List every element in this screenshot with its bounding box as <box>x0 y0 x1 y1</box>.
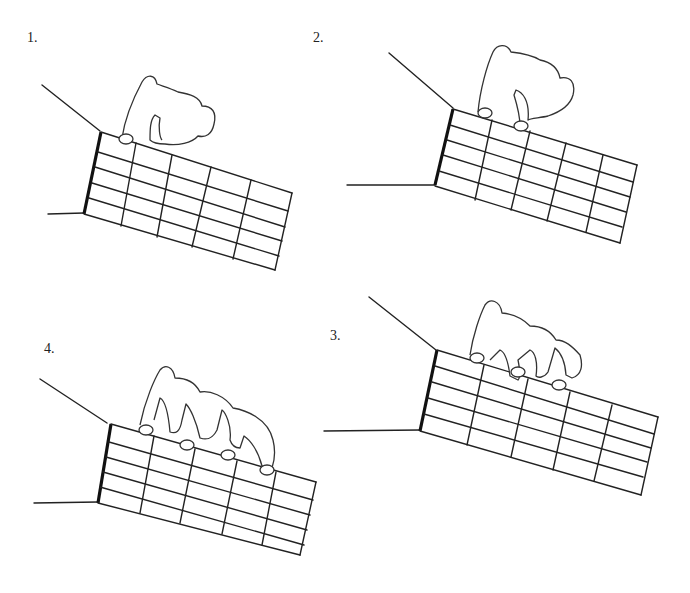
hand-icon <box>470 301 581 380</box>
hand-icon <box>140 367 275 468</box>
figure-4-fretboard <box>34 367 316 555</box>
fretboard-illustrations <box>0 0 690 593</box>
figure-1-fretboard <box>42 76 292 270</box>
figure-3-fretboard <box>324 297 658 495</box>
hand-icon <box>122 76 215 144</box>
figure-2-fretboard <box>347 46 637 243</box>
